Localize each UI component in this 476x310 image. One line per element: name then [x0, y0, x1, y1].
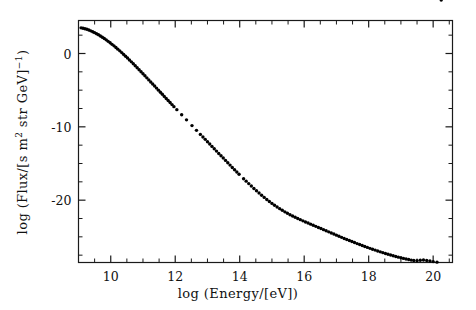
y-axis-label: log (Flux/[s m2 str GeV]−1) — [14, 50, 30, 235]
data-point — [415, 259, 418, 262]
data-point — [180, 113, 183, 116]
x-tick-label: 12 — [167, 269, 183, 284]
x-tick-label: 14 — [232, 269, 248, 284]
data-point — [237, 173, 240, 176]
data-point — [185, 118, 188, 121]
axes-frame — [79, 21, 453, 263]
data-point — [250, 184, 253, 187]
x-tick-label: 20 — [425, 269, 441, 284]
data-point — [419, 259, 422, 262]
cosmic-ray-flux-figure: 1012141618200-10-20 log (Flux/[s m2 str … — [0, 0, 476, 310]
data-point — [435, 260, 438, 263]
y-label-segment: ) — [15, 50, 30, 55]
data-points — [79, 0, 443, 264]
data-point — [428, 259, 431, 262]
data-point — [247, 182, 250, 185]
data-point — [257, 191, 260, 194]
y-label-segment: str GeV] — [15, 69, 30, 132]
y-label-superscript: −1 — [14, 55, 24, 69]
data-point — [252, 187, 255, 190]
y-label-superscript: 2 — [14, 132, 24, 138]
data-point — [172, 105, 175, 108]
data-point — [440, 0, 443, 2]
plot-frame — [79, 21, 453, 263]
x-axis-label: log (Energy/[eV]) — [0, 286, 476, 301]
x-tick-label: 10 — [103, 269, 119, 284]
x-tick-label: 18 — [361, 269, 377, 284]
data-point — [190, 124, 193, 127]
data-point — [431, 260, 434, 263]
data-point — [195, 129, 198, 132]
data-point — [199, 133, 202, 136]
y-axis-label-container: log (Flux/[s m2 str GeV]−1) — [0, 0, 44, 284]
y-label-segment: log (Flux/[s m — [15, 138, 30, 235]
data-point — [412, 259, 415, 262]
data-point — [244, 179, 247, 182]
data-point — [422, 258, 425, 261]
data-point — [175, 108, 178, 111]
x-tick-label: 16 — [296, 269, 312, 284]
data-point — [425, 259, 428, 262]
data-point — [255, 189, 258, 192]
axis-ticks — [79, 21, 453, 263]
data-point — [242, 177, 245, 180]
